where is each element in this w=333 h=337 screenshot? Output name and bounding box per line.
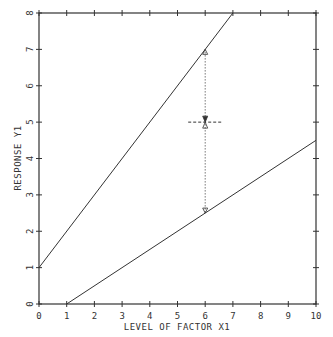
series-line	[67, 140, 316, 304]
y-tick-label: 2	[25, 229, 35, 234]
x-tick-label: 2	[92, 311, 97, 321]
x-tick-label: 5	[175, 311, 180, 321]
y-tick-label: 3	[25, 192, 35, 197]
chart: 012345678910 012345678 LEVEL OF FACTOR X…	[0, 0, 333, 337]
x-tick-label: 10	[311, 311, 322, 321]
y-tick-label: 7	[25, 47, 35, 52]
x-axis-title: LEVEL OF FACTOR X1	[124, 322, 231, 332]
y-tick-label: 8	[25, 10, 35, 15]
x-tick-label: 3	[119, 311, 124, 321]
y-tick-label: 6	[25, 83, 35, 88]
annotations	[188, 49, 222, 213]
axes-box	[39, 13, 316, 304]
x-tick-labels: 012345678910	[36, 311, 321, 321]
series-line	[39, 13, 233, 268]
data-lines	[39, 13, 316, 304]
y-tick-label: 4	[25, 156, 35, 161]
x-tick-label: 4	[147, 311, 152, 321]
plot-frame	[39, 13, 316, 304]
axis-ticks	[36, 10, 319, 307]
x-tick-label: 1	[64, 311, 69, 321]
y-axis-title: RESPONSE Y1	[13, 125, 23, 190]
x-tick-label: 8	[258, 311, 263, 321]
y-tick-labels: 012345678	[25, 10, 35, 306]
y-tick-label: 1	[25, 265, 35, 270]
y-tick-label: 5	[25, 119, 35, 124]
x-tick-label: 7	[230, 311, 235, 321]
x-tick-label: 6	[202, 311, 207, 321]
y-tick-label: 0	[25, 301, 35, 306]
x-tick-label: 0	[36, 311, 41, 321]
x-tick-label: 9	[286, 311, 291, 321]
